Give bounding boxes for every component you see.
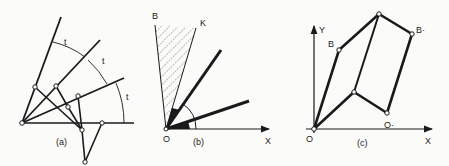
label-y: Y	[319, 25, 325, 35]
joint-top	[377, 12, 381, 16]
arc-label-1: t	[64, 37, 67, 47]
panel-a: t t t (a)	[20, 17, 134, 164]
linkage-outer	[314, 14, 412, 129]
kinematic-diagram-figure: t t t (a) B K O X (b)	[0, 0, 449, 166]
joint	[76, 94, 80, 98]
joint	[80, 128, 84, 132]
label-b: B	[152, 11, 158, 21]
label-origin: O	[163, 134, 170, 144]
joint	[54, 84, 58, 88]
label-origin: O	[306, 134, 313, 144]
caption-a: (a)	[56, 137, 67, 147]
label-o-prime: O·	[384, 120, 394, 130]
label-x: X	[265, 136, 271, 146]
caption-c: (c)	[357, 138, 368, 148]
label-x: X	[425, 136, 431, 146]
diagram-canvas: t t t (a) B K O X (b)	[0, 0, 449, 166]
joint	[83, 160, 87, 164]
arc-3	[116, 83, 124, 123]
joint-mid	[352, 90, 356, 94]
joint-origin	[20, 121, 25, 126]
origin-point	[164, 127, 168, 131]
label-b-prime: B·	[416, 25, 425, 35]
joint	[33, 85, 37, 89]
arc-label-2: t	[102, 56, 105, 66]
joint-b	[337, 48, 341, 52]
caption-b: (b)	[193, 137, 204, 147]
ray-1	[22, 17, 61, 123]
joint-b-prime	[410, 32, 414, 36]
label-b: B	[328, 39, 334, 49]
panel-c: Y B B· O· O X (c)	[306, 12, 432, 148]
joint-o-prime	[385, 111, 389, 115]
arc-1	[53, 42, 85, 57]
panel-b: B K O X (b)	[152, 11, 271, 147]
joint-o	[312, 127, 317, 132]
joint	[66, 105, 70, 109]
arc-label-3: t	[126, 92, 129, 102]
joint	[100, 121, 104, 125]
label-k: K	[200, 18, 206, 28]
